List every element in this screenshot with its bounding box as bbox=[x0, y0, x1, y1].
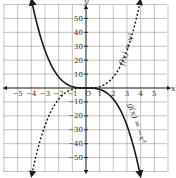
y-axis-label: y bbox=[83, 0, 89, 6]
y-tick-label: 50 bbox=[74, 15, 83, 23]
x-axis-label: x bbox=[171, 84, 176, 93]
y-tick-label: 20 bbox=[74, 57, 83, 65]
y-tick-label: 30 bbox=[74, 43, 83, 51]
cubic-functions-chart: xy −5−4−3−2−1O12345−50−40−30−20−10102030… bbox=[0, 0, 176, 178]
axes: xy bbox=[5, 0, 176, 172]
x-tick-label: 1 bbox=[97, 90, 101, 98]
y-tick-label: 40 bbox=[74, 29, 83, 37]
f-label: f(x) = x³ bbox=[117, 32, 136, 67]
y-tick-label: 10 bbox=[74, 71, 83, 79]
y-tick-label: −30 bbox=[68, 126, 83, 134]
x-tick-label: 3 bbox=[125, 90, 129, 98]
g-label: g(x) = −x³ bbox=[126, 102, 148, 145]
x-tick-label: −4 bbox=[26, 90, 37, 98]
x-tick-label: 5 bbox=[152, 90, 156, 98]
y-tick-label: −50 bbox=[68, 154, 83, 162]
x-tick-label: 4 bbox=[138, 90, 143, 98]
x-tick-label: −2 bbox=[54, 90, 64, 98]
y-tick-label: −40 bbox=[68, 140, 83, 148]
y-tick-label: −10 bbox=[68, 98, 83, 106]
x-tick-label: −5 bbox=[13, 90, 23, 98]
x-tick-label: −3 bbox=[40, 90, 50, 98]
y-tick-label: −20 bbox=[68, 112, 83, 120]
x-tick-label: O bbox=[85, 90, 91, 98]
